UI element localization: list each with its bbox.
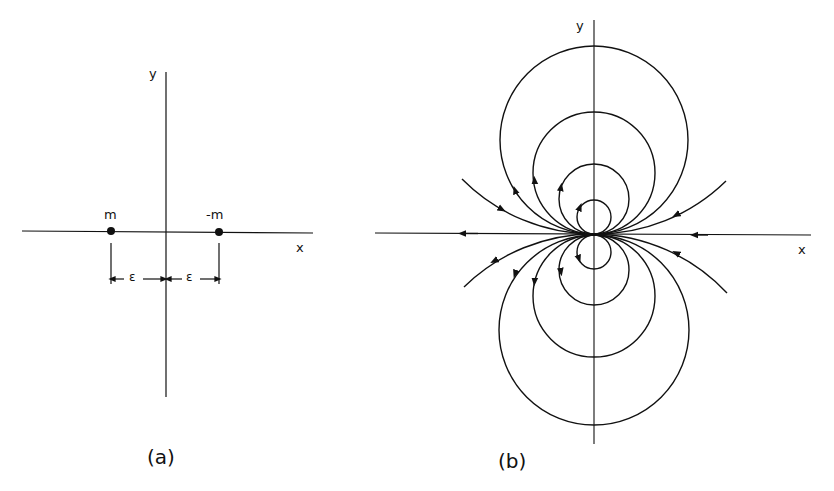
panel-b [375,20,811,444]
charge-neg-m-label: -m [206,208,223,221]
panel-b-y-label: y [576,19,584,32]
panel-a-caption: (a) [147,447,175,467]
arrow-lower-4 [515,268,517,274]
field-line-open-lower-right [594,234,727,293]
panel-a-x-axis [22,231,313,233]
panel-b-caption: (b) [498,451,526,471]
epsilon-left-label: ε [129,271,136,283]
epsilon-right-label: ε [186,271,193,283]
figure-canvas [0,0,834,491]
panel-a-y-label: y [149,67,157,80]
charge-m-point [107,227,115,235]
charge-neg-m-point [215,228,223,236]
panel-a-x-label: x [296,241,304,254]
panel-b-x-label: x [798,243,806,256]
arrow-lower-2 [560,266,561,272]
charge-m-label: m [104,208,117,221]
panel-a [22,72,313,397]
